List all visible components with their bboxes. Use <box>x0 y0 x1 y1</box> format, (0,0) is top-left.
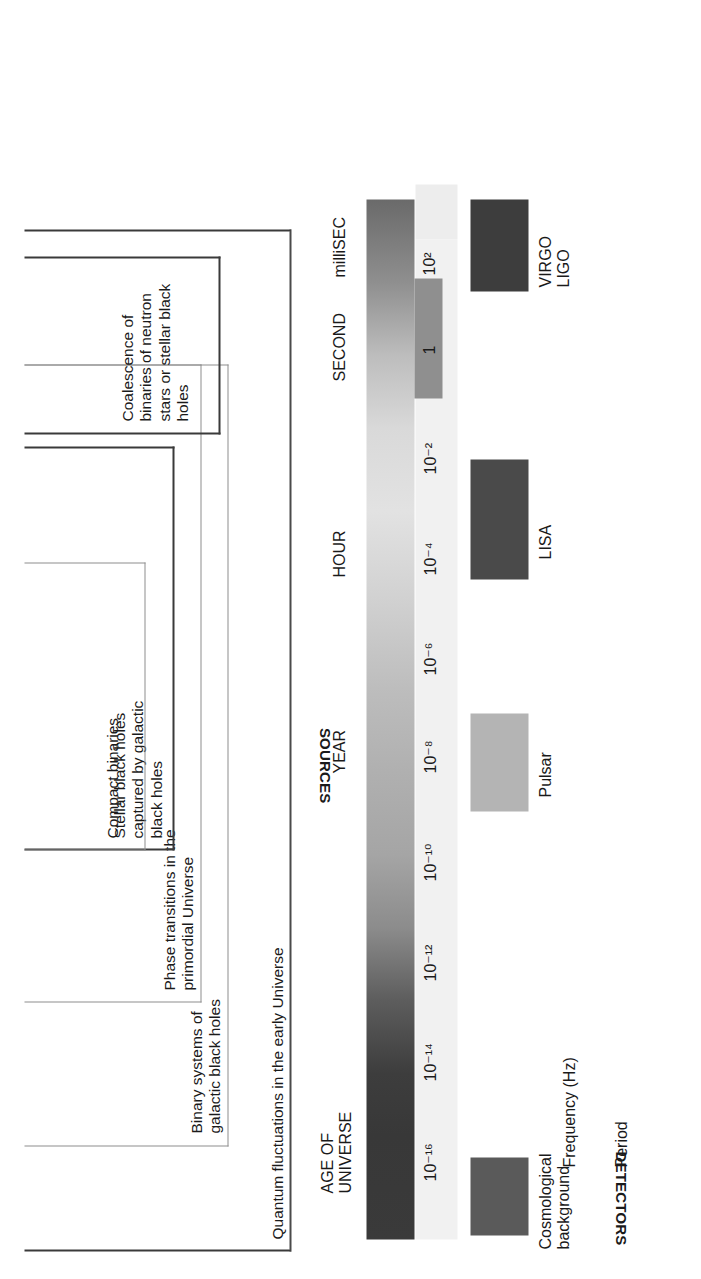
freq-tick-label-1e-2: 10⁻² <box>420 442 439 474</box>
detector-label-lisa: LISA <box>536 524 554 559</box>
spectrum-gradient-bar <box>366 199 414 1239</box>
source-label-compact-binaries: Compact binaries <box>103 717 121 838</box>
source-label-binary-galactic-bh: Binary systems of galactic black holes <box>187 999 224 1133</box>
frequency-axis-label: Frequency (Hz) <box>560 1057 578 1167</box>
detector-box-lisa[interactable] <box>470 459 528 579</box>
detector-label-virgo-ligo: VIRGO LIGO <box>536 235 573 287</box>
freq-tick-label-1e-14: 10⁻¹⁴ <box>420 1043 439 1081</box>
tick-label-halo-right <box>415 184 457 239</box>
source-label-quantum-fluctuations: Quantum fluctuations in the early Univer… <box>268 947 286 1239</box>
freq-tick-label-1e2: 10² <box>420 252 438 275</box>
freq-tick-label-1e-10: 10⁻¹⁰ <box>420 843 439 881</box>
detector-box-cmb[interactable] <box>470 1157 528 1235</box>
period-label-hour: HOUR <box>330 530 348 577</box>
period-label-millisec: milliSEC <box>330 217 348 277</box>
period-axis-label: Period <box>612 1121 630 1167</box>
source-label-phase-transitions: Phase transitions in the primordial Univ… <box>160 829 197 990</box>
freq-tick-label-1: 1 <box>420 345 438 354</box>
freq-tick-label-1e-16: 10⁻¹⁶ <box>420 1143 439 1181</box>
period-label-year: YEAR <box>330 729 348 773</box>
freq-tick-label-1e-4: 10⁻⁴ <box>420 542 439 575</box>
source-label-coalescence: Coalescence of binaries of neutron stars… <box>118 283 191 421</box>
period-label-second: SECOND <box>330 313 348 381</box>
period-label-age: AGE OF UNIVERSE <box>318 1111 353 1193</box>
detector-box-virgo-ligo[interactable] <box>470 199 528 291</box>
detector-label-pulsar: Pulsar <box>536 752 554 797</box>
freq-tick-label-1e-8: 10⁻⁸ <box>420 740 439 773</box>
source-bracket-compact-binaries <box>24 562 145 850</box>
spectrum-accent-strip <box>414 278 442 398</box>
figure-stage: SOURCES Quantum fluctuations in the earl… <box>0 0 701 1279</box>
freq-tick-label-1e-12: 10⁻¹² <box>420 944 439 981</box>
freq-tick-label-1e-6: 10⁻⁶ <box>420 642 439 675</box>
sources-panel: SOURCES Quantum fluctuations in the earl… <box>0 0 340 1279</box>
detector-box-pulsar[interactable] <box>470 713 528 811</box>
